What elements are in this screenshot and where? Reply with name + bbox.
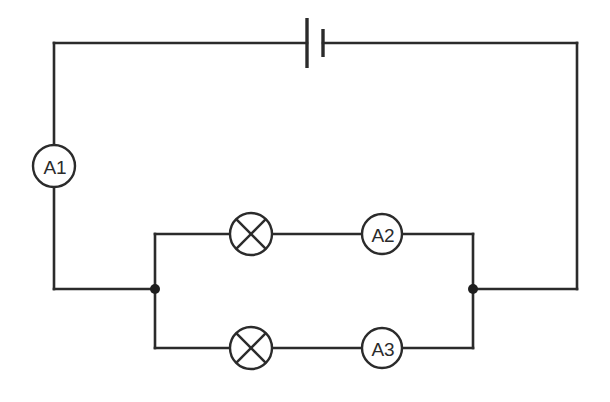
circuit-diagram-canvas: A1 A2 A3 — [0, 0, 610, 402]
junction-dot-right — [468, 284, 478, 294]
circuit-diagram: A1 A2 A3 — [0, 0, 610, 402]
ammeter-a2-label: A2 — [371, 225, 394, 246]
lamp-bottom — [230, 327, 272, 369]
lamp-top — [230, 213, 272, 255]
ammeter-a3-label: A3 — [371, 339, 394, 360]
ammeter-a1: A1 — [33, 145, 75, 187]
battery-symbol — [307, 18, 323, 68]
junction-dot-left — [150, 284, 160, 294]
ammeter-a2: A2 — [362, 214, 402, 254]
ammeter-a1-label: A1 — [43, 157, 66, 178]
ammeter-a3: A3 — [362, 328, 402, 368]
